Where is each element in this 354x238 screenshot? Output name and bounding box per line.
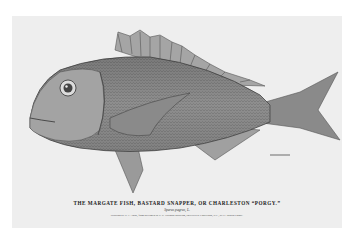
scientific-name: Sparus pagrus, L. [0, 208, 354, 212]
pelvic-fin [115, 148, 143, 193]
drawing-credit: Drawing by H. L. Todd, from specimen in … [0, 214, 354, 217]
plate-title: THE MARGATE FISH, BASTARD SNAPPER, OR CH… [0, 200, 354, 206]
